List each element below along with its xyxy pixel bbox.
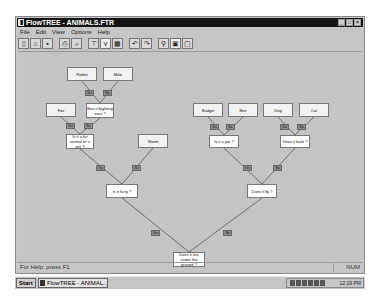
edge-label-yes[interactable]: Yes	[85, 90, 94, 96]
grid-button[interactable]: ▦	[112, 38, 123, 49]
leaf-node-bee[interactable]: Bee	[228, 103, 258, 117]
edge-label-no[interactable]: No	[103, 90, 112, 96]
node-label: Does it fly ?	[252, 189, 273, 194]
new-icon: ▯	[22, 40, 26, 47]
tree-canvas[interactable]: RabbitMoleFoxHas it big/long ears ?Is it…	[18, 51, 362, 264]
edge-label-no[interactable]: No	[226, 124, 235, 130]
undo-icon: ↶	[132, 40, 138, 47]
tray-icon-2[interactable]	[296, 280, 301, 286]
print-preview-button[interactable]: ⌕	[71, 38, 82, 49]
branch-icon: ⋎	[103, 40, 108, 47]
tray-icon-5[interactable]	[314, 280, 319, 286]
toolbar: ▯⌂▪⎙⌕⊤⋎▦↶↷⚲▣▢	[18, 37, 193, 49]
redo-icon: ↷	[144, 40, 150, 47]
leaf-node-worm[interactable]: Worm	[138, 134, 168, 148]
node-label: Bee	[239, 108, 246, 113]
menu-bar: File Edit View Options Help	[18, 28, 110, 36]
leaf-node-dog[interactable]: Dog	[263, 103, 293, 117]
title-bar[interactable]: ▮ FlowTREE - ANIMALS.FTR _ □ ×	[17, 18, 363, 27]
edge-label-yes[interactable]: Yes	[96, 165, 105, 171]
flowtree-task-icon	[40, 280, 45, 286]
zoom-button[interactable]: ⚲	[158, 38, 169, 49]
node-label: Is it a fur animal or a pet ?	[67, 134, 93, 149]
question-node-q-fly2[interactable]: Does it fly ?	[247, 184, 277, 198]
window-title: FlowTREE - ANIMALS.FTR	[26, 18, 114, 27]
edge-label-no[interactable]: No	[223, 230, 232, 236]
menu-help[interactable]: Help	[98, 28, 110, 36]
edge-label-yes[interactable]: Yes	[243, 165, 252, 171]
node-label: Has it big/long ears ?	[87, 106, 113, 116]
system-tray: 12:19 PM	[286, 278, 364, 288]
menu-file[interactable]: File	[20, 28, 30, 36]
leaf-node-fox[interactable]: Fox	[46, 103, 76, 117]
clock[interactable]: 12:19 PM	[340, 280, 361, 286]
edge-label-no[interactable]: No	[297, 124, 306, 130]
fit-button[interactable]: ▣	[170, 38, 181, 49]
tree-edge	[189, 198, 262, 252]
volume-icon[interactable]	[320, 280, 325, 286]
frame-icon: ▢	[184, 40, 191, 47]
question-node-q-bark[interactable]: Does it bark ?	[280, 135, 310, 148]
edge-label-no[interactable]: No	[84, 123, 93, 129]
question-node-q-pet[interactable]: Is it a fur animal or a pet ?	[66, 134, 94, 149]
leaf-node-budgie[interactable]: Budgie	[193, 103, 223, 117]
app-window: ▮ FlowTREE - ANIMALS.FTR _ □ × File Edit…	[15, 16, 365, 274]
num-lock-indicator: NUM	[333, 263, 360, 272]
edge-label-yes[interactable]: Yes	[210, 124, 219, 130]
question-node-q-furry[interactable]: Is it furry ?	[106, 184, 138, 198]
tree-edge	[122, 198, 189, 252]
menu-options[interactable]: Options	[71, 28, 92, 36]
frame-button[interactable]: ▢	[182, 38, 193, 49]
tray-icon-1[interactable]	[290, 280, 295, 286]
tree-icon: ⊤	[91, 40, 97, 47]
node-label: Rabbit	[76, 72, 88, 77]
start-label: Start	[19, 280, 33, 286]
save-button[interactable]: ▪	[42, 38, 53, 49]
edge-label-no[interactable]: No	[273, 165, 282, 171]
leaf-node-cat[interactable]: Cat	[299, 103, 329, 117]
minimize-button[interactable]: _	[338, 19, 345, 26]
zoom-icon: ⚲	[161, 40, 166, 47]
status-help-text: For Help, press F1	[20, 264, 70, 270]
node-label: Is it furry ?	[113, 189, 132, 194]
tray-icon-4[interactable]	[308, 280, 313, 286]
leaf-node-rabbit[interactable]: Rabbit	[67, 67, 97, 81]
save-icon: ▪	[46, 40, 48, 47]
question-node-q-fly[interactable]: Is it a pet ?	[209, 135, 239, 148]
start-button[interactable]: Start	[16, 278, 36, 288]
node-label: Mole	[114, 72, 123, 77]
undo-button[interactable]: ↶	[129, 38, 140, 49]
edge-label-no[interactable]: No	[132, 165, 141, 171]
fit-icon: ▣	[172, 40, 179, 47]
menu-view[interactable]: View	[52, 28, 65, 36]
node-label: Budgie	[202, 108, 214, 113]
maximize-button[interactable]: □	[346, 19, 353, 26]
node-label: Dog	[274, 108, 281, 113]
app-icon: ▮	[18, 19, 24, 26]
tree-button[interactable]: ⊤	[88, 38, 99, 49]
open-button[interactable]: ⌂	[30, 38, 41, 49]
print-button[interactable]: ⎙	[59, 38, 70, 49]
edge-label-yes[interactable]: Yes	[151, 230, 160, 236]
edge-label-yes[interactable]: Yes	[66, 123, 75, 129]
taskbar: Start FlowTREE - ANIMAL... 12:19 PM	[15, 276, 365, 289]
node-label: Cat	[311, 108, 317, 113]
redo-button[interactable]: ↷	[141, 38, 152, 49]
node-label: Does it bark ?	[283, 139, 308, 144]
question-node-q-ears[interactable]: Has it big/long ears ?	[86, 103, 114, 118]
print-preview-icon: ⌕	[75, 40, 79, 47]
menu-edit[interactable]: Edit	[36, 28, 46, 36]
node-label: Worm	[148, 139, 159, 144]
tree-edges	[18, 52, 362, 264]
leaf-node-mole[interactable]: Mole	[103, 67, 133, 81]
close-button[interactable]: ×	[354, 19, 361, 26]
taskbar-item-flowtree[interactable]: FlowTREE - ANIMAL...	[38, 278, 108, 288]
branch-button[interactable]: ⋎	[100, 38, 111, 49]
node-label: Fox	[58, 108, 65, 113]
print-icon: ⎙	[62, 40, 68, 47]
tray-icon-3[interactable]	[302, 280, 307, 286]
edge-label-yes[interactable]: Yes	[280, 124, 289, 130]
task-label: FlowTREE - ANIMAL...	[47, 280, 108, 286]
new-button[interactable]: ▯	[18, 38, 29, 49]
node-label: Is it a pet ?	[214, 139, 234, 144]
